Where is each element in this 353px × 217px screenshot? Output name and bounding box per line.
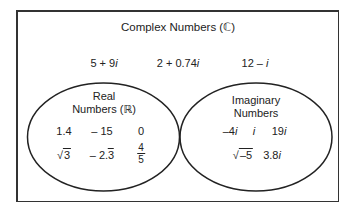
imaginary-value-sqrt-neg5: √–5: [233, 149, 253, 162]
imaginary-value-1: –4i: [223, 125, 238, 138]
imaginary-value-3: 19i: [272, 125, 287, 138]
real-value-2: – 15: [91, 125, 112, 138]
real-value-repeating: – 2.3: [90, 149, 114, 162]
real-value-1: 1.4: [56, 125, 71, 138]
complex-example-1: 5 + 9i: [90, 57, 117, 70]
real-value-3: 0: [138, 125, 144, 138]
real-value-fraction: 45: [137, 142, 145, 165]
imaginary-value-4: 3.8i: [263, 149, 281, 162]
diagram-title: Complex Numbers (ℂ): [121, 21, 235, 34]
real-label-line2: Numbers (ℝ): [72, 103, 136, 116]
imaginary-label-line2: Numbers: [234, 107, 279, 120]
complex-example-3: 12 – i: [242, 57, 269, 70]
complex-example-2: 2 + 0.74i: [157, 57, 200, 70]
imaginary-label-line1: Imaginary: [232, 94, 280, 107]
real-label-line1: Real: [93, 90, 116, 103]
real-value-sqrt3: √3: [57, 149, 71, 162]
imaginary-value-2: i: [253, 125, 255, 138]
